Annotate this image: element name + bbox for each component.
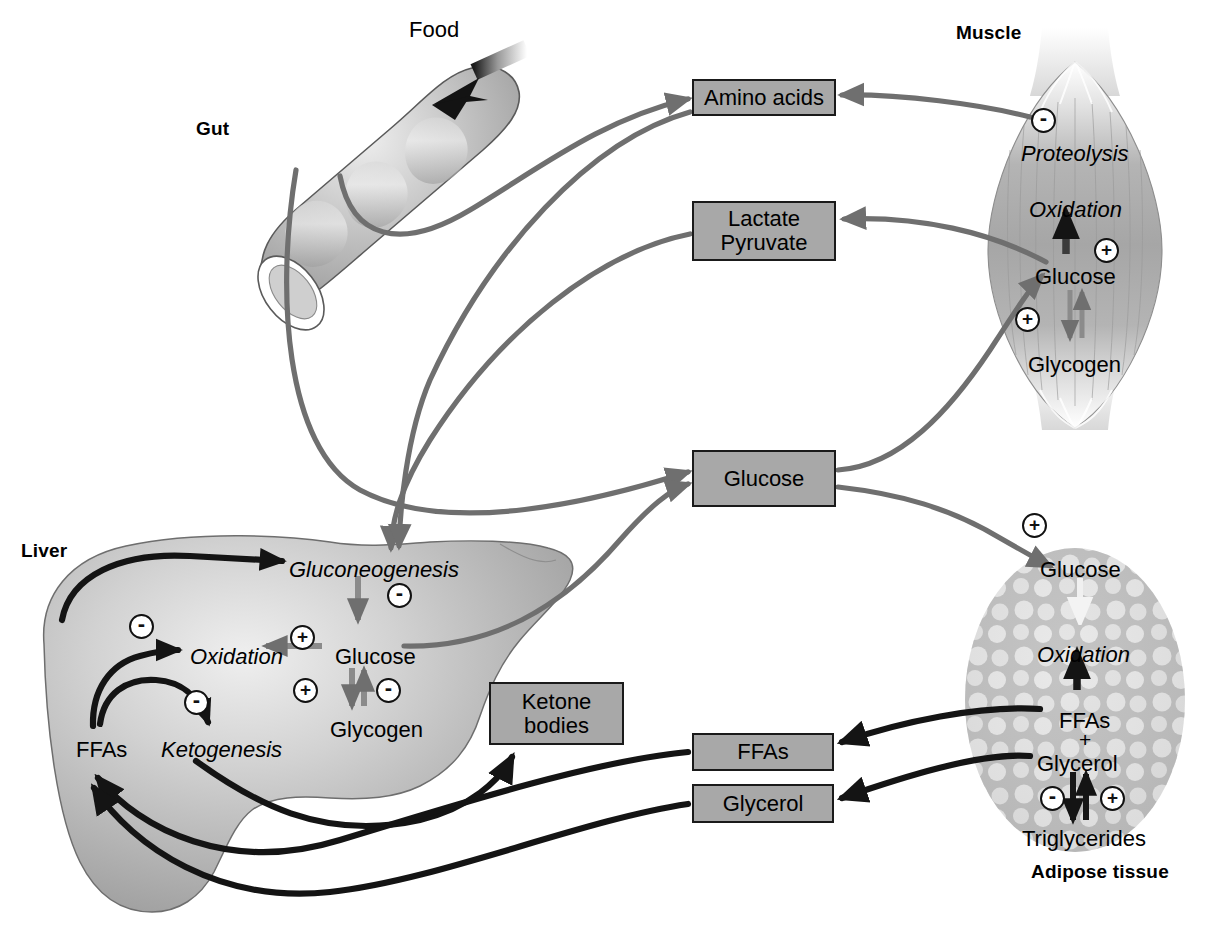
box-amino-acids[interactable]: Amino acids — [692, 79, 836, 116]
box-blood-glucose-line-1: Glucose — [724, 467, 805, 491]
liver-ffas-label: FFAs — [76, 738, 127, 763]
adipose-glycerol-label: Glycerol — [1037, 752, 1118, 777]
sign-liver-gluconeogenesis-minus: - — [387, 583, 412, 608]
sign-muscle-proteolysis-minus: - — [1031, 108, 1056, 133]
box-ketone-line-1: Ketone — [522, 690, 592, 714]
diagram-canvas: Gut Muscle Liver Adipose tissue Food Pro… — [0, 0, 1217, 931]
box-lactate-pyruvate[interactable]: Lactate Pyruvate — [692, 201, 836, 261]
adipose-glucose-label: Glucose — [1040, 558, 1121, 583]
liver-gluconeogenesis-label: Gluconeogenesis — [289, 558, 459, 583]
muscle-glucose-label: Glucose — [1035, 265, 1116, 290]
sign-liver-ketogenesis-minus: - — [184, 690, 209, 715]
liver-glucose-label: Glucose — [335, 645, 416, 670]
sign-adipose-glucose-uptake-plus: + — [1022, 513, 1047, 538]
sign-liver-ffa-oxidation-minus: - — [129, 614, 154, 639]
adipose-title: Adipose tissue — [1031, 861, 1169, 882]
adipose-organ — [965, 548, 1185, 852]
liver-glycogen-label: Glycogen — [330, 718, 423, 743]
muscle-title: Muscle — [956, 22, 1022, 43]
liver-title: Liver — [21, 540, 67, 561]
box-ffas-line-1: FFAs — [737, 740, 788, 764]
sign-adipose-lipolysis-minus: - — [1040, 786, 1065, 811]
box-glycerol-line-1: Glycerol — [723, 792, 804, 816]
muscle-glycogen-label: Glycogen — [1028, 353, 1121, 378]
metabolism-diagram-svg — [0, 0, 1217, 931]
box-ketone-bodies[interactable]: Ketone bodies — [489, 682, 624, 745]
sign-liver-oxidation-plus: + — [290, 625, 315, 650]
box-glycerol[interactable]: Glycerol — [692, 784, 834, 823]
flow-muscle-proteolysis-to-amino-acids — [842, 95, 1030, 117]
sign-muscle-oxidation-plus: + — [1094, 238, 1119, 263]
liver-oxidation-label: Oxidation — [190, 645, 283, 670]
box-amino-acids-line-1: Amino acids — [704, 86, 824, 110]
box-blood-glucose[interactable]: Glucose — [692, 450, 836, 507]
sign-liver-glycogenesis-minus: - — [376, 678, 401, 703]
muscle-oxidation-label: Oxidation — [1029, 198, 1122, 223]
flow-blood-glucose-to-adipose — [838, 487, 1050, 566]
sign-liver-glycogenolysis-plus: + — [293, 678, 318, 703]
adipose-triglycerides-label: Triglycerides — [1022, 827, 1146, 852]
sign-muscle-glucose-uptake-plus: + — [1015, 307, 1040, 332]
gut-title: Gut — [196, 118, 229, 139]
adipose-oxidation-label: Oxidation — [1037, 643, 1130, 668]
liver-ketogenesis-label: Ketogenesis — [161, 738, 282, 763]
box-lactate-line-1: Lactate — [728, 207, 800, 231]
flow-lactate-to-gluconeogenesis — [391, 234, 690, 548]
box-ketone-line-2: bodies — [524, 714, 589, 738]
food-label: Food — [409, 18, 459, 43]
muscle-proteolysis-label: Proteolysis — [1021, 142, 1129, 167]
adipose-plus-separator: + — [1079, 728, 1091, 752]
box-lactate-line-2: Pyruvate — [721, 231, 808, 255]
box-ffas[interactable]: FFAs — [692, 733, 834, 771]
sign-adipose-lipogenesis-plus: + — [1100, 786, 1125, 811]
